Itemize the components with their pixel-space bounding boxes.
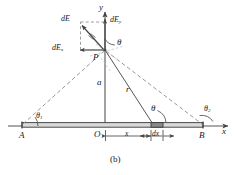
vector-label-dEy: dEy bbox=[110, 16, 121, 25]
angle-label-theta1: θ1 bbox=[36, 112, 42, 121]
vector-dE-resultant bbox=[82, 26, 104, 51]
point-label-A: A bbox=[19, 131, 25, 140]
construction-ray-3 bbox=[101, 58, 111, 72]
point-label-O: O bbox=[94, 130, 101, 139]
diagram-canvas bbox=[0, 0, 236, 175]
point-label-P: P bbox=[93, 53, 99, 62]
point-label-B: B bbox=[199, 131, 205, 140]
vector-label-dEx: dEx bbox=[52, 44, 63, 53]
angle-arc-theta-point bbox=[105, 39, 115, 45]
figure-caption: (b) bbox=[110, 154, 121, 164]
vector-label-dE: dE bbox=[61, 15, 70, 23]
construction-ray-1 bbox=[96, 44, 118, 60]
angle-label-theta-rod: θ bbox=[151, 104, 155, 113]
y-axis-label: y bbox=[99, 3, 103, 12]
length-label-x: x bbox=[125, 130, 128, 138]
length-label-r: r bbox=[126, 85, 130, 94]
point-P-marker bbox=[104, 49, 107, 52]
angle-label-theta-point: θ bbox=[117, 38, 121, 47]
length-label-a: a bbox=[97, 78, 102, 87]
figure-electric-field-of-charged-rod: y x dE dEy dEx θ P a r θ θ1 θ2 A O B x d… bbox=[0, 0, 236, 175]
angle-label-theta2: θ2 bbox=[204, 105, 210, 114]
charge-element-dx bbox=[151, 123, 163, 128]
angle-arc-theta-rod bbox=[158, 111, 167, 123]
angle-arc-theta2 bbox=[200, 115, 214, 121]
dashed-line-P-to-B bbox=[106, 51, 202, 124]
x-axis-label: x bbox=[222, 127, 226, 136]
charged-rod bbox=[22, 123, 203, 128]
length-label-dx: dx bbox=[152, 130, 159, 138]
